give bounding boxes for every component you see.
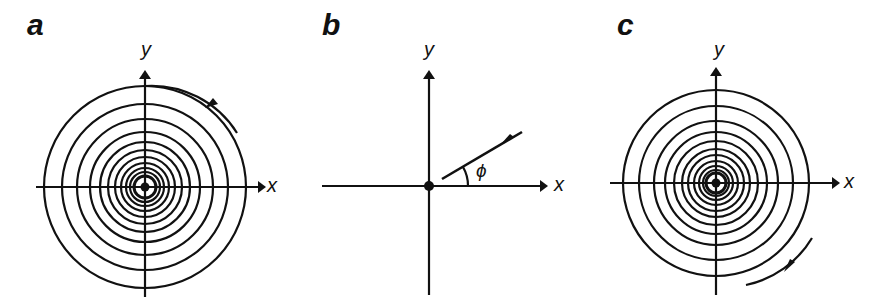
angle-arc [463, 167, 468, 186]
y-arrow-icon [710, 67, 722, 76]
origin-dot [141, 183, 150, 192]
trajectory-diagram-b [300, 0, 590, 307]
x-arrow-icon [258, 181, 266, 193]
panel-b: b y x ϕ [300, 0, 590, 307]
spiral-diagram-c [590, 0, 885, 307]
x-arrow-icon [832, 177, 840, 189]
spiral-diagram-a [0, 0, 300, 307]
origin-dot [424, 181, 434, 191]
x-arrow-icon [540, 180, 548, 192]
panel-c: c y x [590, 0, 885, 307]
y-arrow-icon [139, 70, 151, 79]
origin-dot [712, 179, 721, 188]
y-arrow-icon [423, 70, 435, 79]
panel-a: a y x [0, 0, 300, 307]
